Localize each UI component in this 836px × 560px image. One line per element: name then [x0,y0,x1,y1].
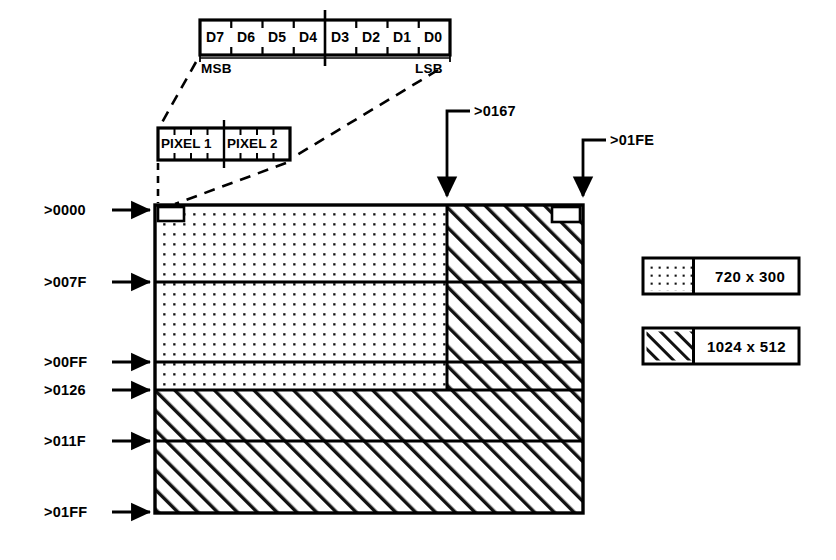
diagram-canvas: D7 D6 D5 D4 D3 D2 D1 D0 MSB LSB PIXEL 1 … [0,0,836,560]
legend-label-1024x512: 1024 x 512 [707,338,786,355]
address-label-011f: >011F [44,433,86,449]
memory-map-graphic [155,205,583,513]
bit-label-d4: D4 [299,29,317,45]
pixel-2-label: PIXEL 2 [227,136,278,151]
top-pointer-arrows [447,111,606,196]
bit-label-d5: D5 [268,29,286,45]
msb-label: MSB [201,61,232,76]
bit-label-d3: D3 [331,29,349,45]
bit-label-d0: D0 [424,29,442,45]
pixel-1-label: PIXEL 1 [161,136,212,151]
address-label-00ff: >00FF [44,354,87,370]
address-label-0000: >0000 [44,202,86,218]
top-pointer-label-01fe: >01FE [610,132,654,148]
bit-label-d1: D1 [393,29,411,45]
address-label-007f: >007F [44,274,87,290]
lsb-label: LSB [415,61,443,76]
address-label-01ff: >01FF [44,504,87,520]
bit-label-d6: D6 [237,29,255,45]
left-pointer-arrows [112,210,150,512]
top-pointer-label-0167: >0167 [474,103,516,119]
address-label-0126: >0126 [44,382,86,398]
bit-label-d7: D7 [206,29,224,45]
bit-label-d2: D2 [362,29,380,45]
diagram-vector-layer [0,0,836,560]
legend-label-720x300: 720 x 300 [715,268,785,285]
